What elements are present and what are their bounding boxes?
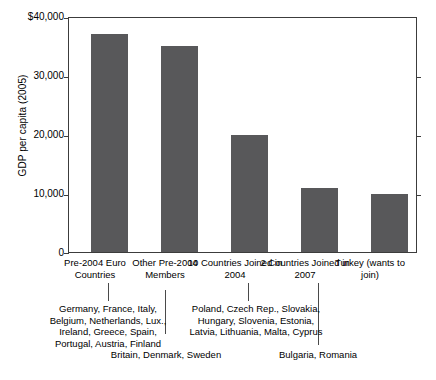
tick-left-40000 [64, 18, 69, 19]
tick-left-0 [64, 253, 69, 254]
annotation-joined-2007: Bulgaria, Romania [258, 349, 378, 361]
bar-pre-2004-euro-countries[interactable] [91, 34, 128, 252]
tick-right-10000 [416, 195, 421, 196]
y-tick-label-10000: 10,000 [18, 189, 64, 199]
y-axis-tick-labels: $40,000 30,000 20,000 10,000 0 [14, 0, 64, 260]
annotation-joined-2004: Poland, Czech Rep., Slovakia, Hungary, S… [176, 303, 336, 338]
tick-left-20000 [64, 136, 69, 137]
plot-area [68, 17, 417, 253]
annotation-other-pre-2004: Britain, Denmark, Sweden [106, 349, 226, 361]
y-tick-label-30000: 30,000 [18, 71, 64, 81]
chart-figure: GDP per capita (2005) $40,000 30,000 20,… [0, 0, 436, 380]
leader-line-euro-countries [108, 283, 109, 301]
y-tick-label-40000: $40,000 [18, 12, 64, 22]
tick-right-30000 [416, 77, 421, 78]
annotation-euro-countries: Germany, France, Italy, Belgium, Netherl… [18, 303, 198, 349]
leader-line-joined-2004 [248, 283, 249, 301]
bar-other-pre-2004-members[interactable] [161, 46, 198, 253]
bar-2-countries-joined-2007[interactable] [301, 188, 338, 252]
y-tick-label-20000: 20,000 [18, 130, 64, 140]
bar-10-countries-joined-2004[interactable] [231, 135, 268, 252]
category-label-turkey: Turkey (wants to join) [335, 257, 405, 280]
tick-right-20000 [416, 136, 421, 137]
tick-left-30000 [64, 77, 69, 78]
bar-turkey[interactable] [371, 194, 408, 252]
tick-left-10000 [64, 195, 69, 196]
